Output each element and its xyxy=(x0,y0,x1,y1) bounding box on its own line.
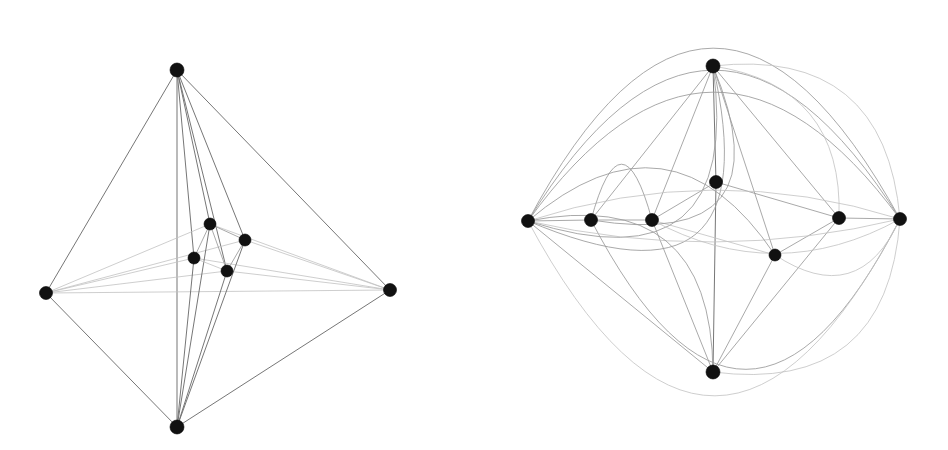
graph-edge xyxy=(46,70,177,293)
graph-edge-curved xyxy=(591,164,652,220)
graph-edge xyxy=(245,240,390,290)
graph-vertex xyxy=(585,214,598,227)
graph-vertex xyxy=(40,287,53,300)
graph-edge xyxy=(528,220,591,221)
graph-edge-curved xyxy=(652,219,900,254)
graph-vertex xyxy=(221,265,233,277)
graph-edge-curved xyxy=(528,219,900,242)
graph-vertex xyxy=(204,218,216,230)
graph-edge-curved xyxy=(775,219,900,276)
graph-vertex xyxy=(188,252,200,264)
figure-root xyxy=(0,0,948,450)
graph-edge xyxy=(713,182,716,372)
graph-edge-curved xyxy=(713,219,900,375)
graph-edge xyxy=(46,293,177,427)
graph-edge xyxy=(713,66,716,182)
graph-edge xyxy=(528,221,713,372)
graph-edge xyxy=(46,290,390,293)
graph-edge xyxy=(713,66,775,255)
graph-edge xyxy=(652,182,716,220)
graph-vertex xyxy=(170,63,184,77)
graph-vertex xyxy=(706,365,720,379)
graph-edge xyxy=(839,218,900,219)
graph-edge-curved xyxy=(528,215,713,372)
edge-layer xyxy=(46,70,390,427)
graph-vertex xyxy=(239,234,251,246)
graph-vertex xyxy=(710,176,723,189)
graph-vertex xyxy=(646,214,659,227)
graph-edge xyxy=(177,70,390,290)
graph-edge xyxy=(716,182,839,218)
left-graph-panel xyxy=(0,0,474,450)
graph-edge xyxy=(713,218,839,372)
graph-edge xyxy=(713,66,839,218)
graph-edge-curved xyxy=(713,64,900,219)
graph-edge xyxy=(177,70,194,258)
graph-edge xyxy=(775,218,839,255)
left-graph-canvas xyxy=(0,0,474,450)
graph-vertex xyxy=(769,249,781,261)
graph-edge xyxy=(177,70,210,224)
graph-edge xyxy=(46,258,194,293)
graph-edge xyxy=(227,271,390,290)
graph-edge xyxy=(177,290,390,427)
graph-vertex xyxy=(833,212,846,225)
graph-vertex xyxy=(894,213,907,226)
graph-edge xyxy=(652,66,713,220)
graph-edge-curved xyxy=(591,66,734,225)
graph-edge xyxy=(177,70,245,240)
graph-vertex xyxy=(522,215,535,228)
graph-vertex xyxy=(170,420,184,434)
graph-edge xyxy=(177,240,245,427)
right-graph-panel xyxy=(474,0,948,450)
graph-vertex xyxy=(706,59,720,73)
graph-edge xyxy=(591,66,713,220)
graph-edge xyxy=(713,255,775,372)
graph-vertex xyxy=(384,284,397,297)
graph-edge-curved xyxy=(528,66,717,237)
right-graph-canvas xyxy=(474,0,948,450)
vertex-layer xyxy=(40,63,397,434)
graph-edge xyxy=(210,224,390,290)
